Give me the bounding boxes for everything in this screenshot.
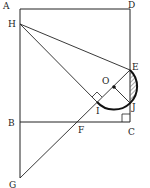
segment-he — [20, 24, 130, 70]
label-j: J — [131, 102, 136, 112]
right-angle-i — [92, 92, 102, 97]
square-abcd — [20, 9, 130, 178]
geometry-diagram: A D H E O I J C B F G — [0, 0, 150, 188]
label-b: B — [8, 118, 15, 128]
segment-hi — [20, 24, 97, 102]
label-c: C — [128, 127, 135, 137]
label-e: E — [132, 62, 139, 72]
segment-oj — [114, 87, 130, 103]
label-a: A — [2, 1, 10, 11]
point-labels: A D H E O I J C B F G — [2, 0, 139, 188]
label-f: F — [78, 125, 84, 135]
right-angle-c — [122, 114, 130, 122]
label-o: O — [102, 76, 109, 86]
label-g: G — [9, 180, 16, 188]
label-h: H — [8, 19, 16, 29]
center-o-dot — [112, 85, 116, 89]
construction-lines — [20, 24, 130, 178]
label-i: I — [96, 106, 100, 116]
label-d: D — [128, 0, 135, 10]
